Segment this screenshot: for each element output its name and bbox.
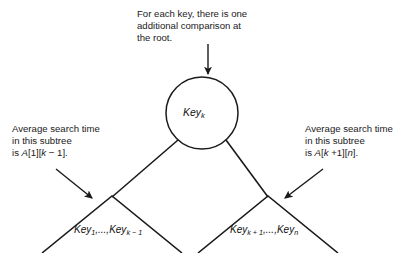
right-subtree-label-last: Key xyxy=(277,224,294,235)
right-subtree-label-separator: ,..., xyxy=(263,224,277,235)
annotation-right-line-1: Average search time xyxy=(305,123,393,135)
left-annotation-arrow xyxy=(56,169,92,198)
right-annotation-arrow xyxy=(285,169,323,198)
binary-search-tree-diagram: For each key, there is one additional co… xyxy=(0,0,418,253)
right-subtree-label: Keyk + 1,...,Keyn xyxy=(230,224,298,237)
right-subtree-label-first: Key xyxy=(230,224,247,235)
annotation-top-line-1: For each key, there is one xyxy=(137,8,247,20)
annotation-left-line-1: Average search time xyxy=(12,123,100,135)
annotation-right-index-3: ]. xyxy=(353,147,358,158)
annotation-right-line-2: in this subtree xyxy=(305,135,393,147)
left-subtree-label: Key1,...,Keyk − 1 xyxy=(74,224,142,237)
left-subtree-label-last-subscript: k − 1 xyxy=(126,228,142,237)
annotation-right: Average search time in this subtree is A… xyxy=(305,123,393,160)
root-node-label-text: Key xyxy=(183,106,201,118)
annotation-left-formula: is A[1][k − 1]. xyxy=(12,147,100,159)
annotation-left-index-1: [1][ xyxy=(28,147,41,158)
right-subtree-label-last-subscript: n xyxy=(294,228,298,237)
annotation-left-index-2: − 1]. xyxy=(46,147,68,158)
annotation-left-line-2: in this subtree xyxy=(12,135,100,147)
annotation-left-prefix: is xyxy=(12,147,22,158)
annotation-left: Average search time in this subtree is A… xyxy=(12,123,100,160)
annotation-right-index-2: +1][ xyxy=(328,147,347,158)
annotation-right-prefix: is xyxy=(305,147,315,158)
edge-root-to-right-subtree xyxy=(226,140,268,197)
annotation-right-formula: is A[k +1][n]. xyxy=(305,147,393,159)
annotation-top-line-2: additional comparison at xyxy=(137,20,247,32)
annotation-top: For each key, there is one additional co… xyxy=(137,8,247,45)
root-node-label: Keyk xyxy=(183,106,205,120)
right-subtree-label-first-subscript: k + 1 xyxy=(247,228,263,237)
left-subtree-label-separator: ,..., xyxy=(95,224,109,235)
annotation-top-line-3: the root. xyxy=(137,32,247,44)
edge-root-to-left-subtree xyxy=(112,140,178,197)
root-node-label-subscript: k xyxy=(201,111,205,120)
left-subtree-label-last: Key xyxy=(109,224,126,235)
left-subtree-label-first: Key xyxy=(74,224,91,235)
